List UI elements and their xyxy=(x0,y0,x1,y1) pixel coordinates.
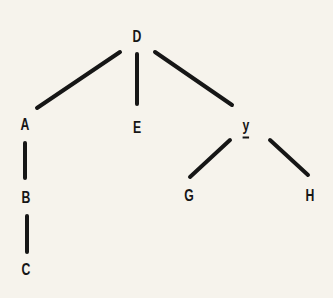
node-label: D xyxy=(133,27,142,47)
node-A: A xyxy=(19,115,31,135)
node-y: y xyxy=(241,116,250,139)
node-label: A xyxy=(21,115,30,135)
tree-edges xyxy=(0,0,333,298)
node-D: D xyxy=(131,27,143,47)
node-label: H xyxy=(306,186,315,206)
node-label: C xyxy=(22,260,31,280)
node-label: G xyxy=(184,186,194,206)
edge-y-H xyxy=(270,140,308,175)
node-H: H xyxy=(304,186,316,206)
node-label: E xyxy=(133,118,141,138)
edge-y-G xyxy=(190,140,230,177)
node-E: E xyxy=(131,118,142,138)
edge-D-y xyxy=(155,52,232,105)
node-label: B xyxy=(22,188,31,208)
node-C: C xyxy=(20,260,32,280)
node-G: G xyxy=(182,186,195,206)
edge-D-A xyxy=(37,52,120,108)
node-B: B xyxy=(20,188,32,208)
node-label: y xyxy=(243,116,250,139)
